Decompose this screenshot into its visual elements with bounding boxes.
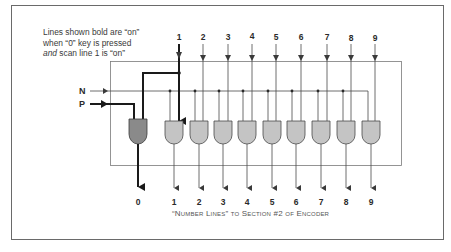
output-lines bbox=[174, 144, 371, 188]
bold-lines-note: Lines shown bold are “on” when “0” key i… bbox=[43, 27, 139, 59]
encoder-section-box bbox=[111, 62, 402, 166]
n-bus-taps bbox=[170, 91, 343, 121]
scan1-to-gate0-line bbox=[143, 73, 179, 119]
and-gate-9 bbox=[362, 121, 380, 144]
p-input-label: P bbox=[79, 99, 85, 109]
note-line-1: Lines shown bold are “on” bbox=[43, 27, 139, 38]
scan-lines bbox=[176, 44, 378, 121]
output-label-2: 2 bbox=[197, 197, 202, 207]
scan-line-label-6: 6 bbox=[299, 32, 304, 42]
and-gate-3 bbox=[214, 121, 232, 144]
scan-line-label-8: 8 bbox=[349, 33, 354, 43]
n-bus-line bbox=[108, 91, 368, 121]
scan-line-label-5: 5 bbox=[274, 32, 279, 42]
output-label-8: 8 bbox=[344, 197, 349, 207]
and-gate-1 bbox=[165, 121, 183, 144]
scan-line-label-9: 9 bbox=[373, 33, 378, 43]
and-gate-5 bbox=[263, 121, 281, 144]
scan-line-label-1: 1 bbox=[177, 32, 182, 42]
and-gate-6 bbox=[287, 121, 305, 144]
output-labels: 0 1 2 3 4 5 6 7 8 9 bbox=[136, 197, 374, 207]
output-label-3: 3 bbox=[221, 197, 226, 207]
output-label-9: 9 bbox=[369, 197, 374, 207]
and-gates-1-9 bbox=[165, 121, 380, 144]
note-emphasis: and bbox=[43, 48, 57, 58]
note-line-3: and scan line 1 is “on” bbox=[43, 48, 139, 59]
scan-line-label-3: 3 bbox=[226, 32, 231, 42]
caption-text: “Number Lines” to Section #2 of Encoder bbox=[172, 209, 329, 218]
output-label-0: 0 bbox=[136, 197, 141, 207]
and-gate-8 bbox=[337, 121, 355, 144]
and-gate-2 bbox=[190, 121, 208, 144]
output-label-7: 7 bbox=[319, 197, 324, 207]
p-to-gate0-line bbox=[108, 104, 134, 119]
scan-line-label-2: 2 bbox=[201, 32, 206, 42]
output-label-1: 1 bbox=[172, 197, 177, 207]
scan-line-label-4: 4 bbox=[250, 31, 255, 41]
and-gate-0 bbox=[129, 119, 147, 144]
scan-line-labels: 1 2 3 4 5 6 7 8 9 bbox=[177, 31, 378, 43]
output-label-5: 5 bbox=[270, 197, 275, 207]
output-label-4: 4 bbox=[245, 197, 250, 207]
and-gate-7 bbox=[312, 121, 330, 144]
output-label-6: 6 bbox=[294, 197, 299, 207]
diagram-caption: “Number Lines” to Section #2 of Encoder bbox=[172, 209, 329, 218]
and-gate-4 bbox=[238, 121, 256, 144]
n-input-label: N bbox=[79, 86, 86, 96]
note-line-3-rest: scan line 1 is “on” bbox=[57, 48, 125, 58]
scan-line-label-7: 7 bbox=[325, 32, 330, 42]
note-line-2: when “0” key is pressed bbox=[43, 38, 139, 49]
